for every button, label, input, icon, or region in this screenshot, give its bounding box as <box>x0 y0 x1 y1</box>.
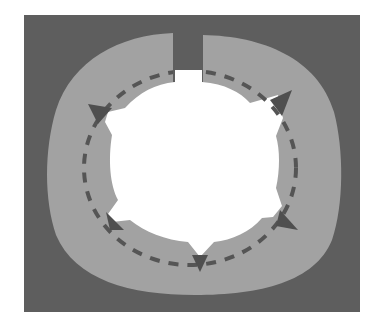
diagram-canvas <box>0 0 377 324</box>
top-gap-inner <box>175 70 202 83</box>
ring-diagram <box>0 0 377 324</box>
